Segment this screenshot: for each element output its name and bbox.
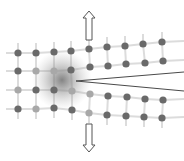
atom xyxy=(122,60,129,67)
atom xyxy=(103,111,110,118)
atom xyxy=(50,86,57,93)
atom xyxy=(50,67,57,74)
atom xyxy=(50,48,57,55)
atom xyxy=(86,90,93,97)
atom xyxy=(141,59,148,66)
atom xyxy=(14,67,21,74)
atom xyxy=(158,38,165,45)
atom xyxy=(14,49,21,56)
atom xyxy=(141,95,148,102)
atom xyxy=(14,86,21,93)
crack-faces xyxy=(76,72,184,91)
atom xyxy=(32,105,39,112)
load-arrow-down-icon xyxy=(83,124,95,152)
atom xyxy=(67,66,74,73)
atom xyxy=(158,114,165,121)
atom xyxy=(85,45,92,52)
atom xyxy=(32,86,39,93)
atom xyxy=(103,43,110,50)
atom xyxy=(50,104,57,111)
atom xyxy=(159,57,166,64)
atom xyxy=(85,109,92,116)
atom xyxy=(123,93,130,100)
crack-upper-face xyxy=(76,72,184,81)
crack-lattice-diagram xyxy=(0,0,184,161)
atom xyxy=(159,96,166,103)
load-arrow-up-icon xyxy=(83,11,95,40)
atom xyxy=(122,112,129,119)
atom xyxy=(140,113,147,120)
atom xyxy=(121,42,128,49)
atom xyxy=(139,40,146,47)
atom xyxy=(32,49,39,56)
diagram-canvas xyxy=(0,0,184,161)
atom xyxy=(32,67,39,74)
atom xyxy=(67,47,74,54)
atom xyxy=(104,62,111,69)
atom xyxy=(14,105,21,112)
atom xyxy=(104,92,111,99)
crack-lower-face xyxy=(76,81,184,91)
atom xyxy=(68,87,75,94)
atom xyxy=(86,63,93,70)
atom xyxy=(68,106,75,113)
